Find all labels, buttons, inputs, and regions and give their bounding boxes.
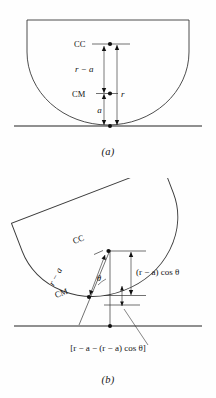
bowl-outline-a xyxy=(27,20,189,125)
figure-page: CC CM r − a r a (a) xyxy=(0,0,216,398)
arrow-down-r-minus-a-a xyxy=(102,88,106,93)
arrow-up-bracket-b xyxy=(120,286,124,291)
bowl-outline-b xyxy=(11,178,199,319)
arrow-up-cos-b xyxy=(129,252,133,257)
cm-point-a xyxy=(108,91,112,95)
cc-point-a xyxy=(108,42,112,46)
tilted-bowl-group-b xyxy=(11,178,199,319)
caption-a: (a) xyxy=(0,146,216,157)
cc-tick-line-b xyxy=(94,251,103,255)
r-label-a: r xyxy=(121,89,125,99)
figure-panel-b: CC CM r − a θ (r − a) cos θ [r − a − (r … xyxy=(0,178,216,398)
arrow-up-r-a xyxy=(115,45,119,50)
figure-panel-a: CC CM r − a r a (a) xyxy=(0,0,216,178)
tilted-axis-line-b xyxy=(79,250,110,325)
cc-label-b: CC xyxy=(71,232,85,245)
arrow-down-a-a xyxy=(102,120,106,125)
arrow-down-cos-b xyxy=(129,290,133,295)
figure-b-svg: CC CM r − a θ (r − a) cos θ [r − a − (r … xyxy=(0,178,216,398)
r-minus-a-label-a: r − a xyxy=(75,64,94,74)
arrow-up-r-minus-a-a xyxy=(102,46,106,51)
contact-point-b xyxy=(108,324,112,328)
cm-label-a: CM xyxy=(72,89,86,99)
bracket-leader-line-b xyxy=(124,309,148,345)
a-label-a: a xyxy=(97,105,102,115)
cc-label-a: CC xyxy=(74,39,86,49)
r-minus-a-cos-theta-label-b: (r − a) cos θ xyxy=(136,267,179,277)
bracket-expression-label-b: [r − a − (r − a) cos θ] xyxy=(70,343,146,353)
theta-label-b: θ xyxy=(97,273,102,283)
arrow-up-a-a xyxy=(102,94,106,99)
r-minus-a-label-b: r − a xyxy=(47,266,65,288)
cm-point-b xyxy=(87,295,91,299)
contact-point-a xyxy=(108,124,112,128)
caption-b: (b) xyxy=(0,374,216,385)
cc-point-b xyxy=(106,249,110,253)
